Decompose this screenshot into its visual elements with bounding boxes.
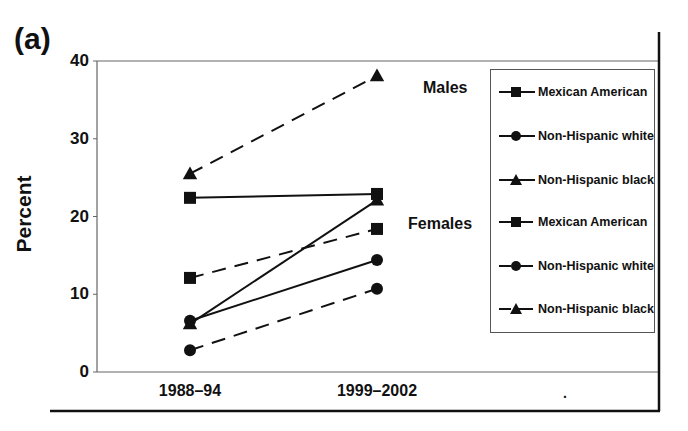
legend: Mexican AmericanNon-Hispanic whiteNon-Hi… [490,69,655,333]
triangle-marker [183,167,197,180]
legend-label: Non-Hispanic black [538,173,654,187]
series-line [190,76,377,174]
square-marker [184,192,196,204]
legend-item: Non-Hispanic black [499,299,654,319]
circle-marker [371,254,383,266]
legend-label: Non-Hispanic white [538,129,654,143]
legend-item: Non-Hispanic black [499,170,654,190]
circle-marker [184,344,196,356]
legend-label: Non-Hispanic black [538,302,654,316]
series-line [190,200,377,324]
stray-mark: . [563,385,567,401]
circle-legend-icon [499,259,535,273]
legend-item: Non-Hispanic white [499,126,654,146]
square-legend-icon [499,85,535,99]
series-line [190,289,377,350]
circle-marker [371,283,383,295]
legend-label: Non-Hispanic white [538,259,654,273]
legend-item: Mexican American [499,82,647,102]
legend-item: Mexican American [499,212,647,232]
triangle-legend-icon [499,302,535,316]
square-legend-icon [499,215,535,229]
females-group-label: Females [408,215,472,233]
series-line [190,260,377,321]
legend-label: Mexican American [538,215,647,229]
triangle-marker [370,69,384,82]
legend-item: Non-Hispanic white [499,256,654,276]
square-marker [371,223,383,235]
males-group-label: Males [423,79,467,97]
circle-legend-icon [499,129,535,143]
square-marker [184,272,196,284]
series-line [190,194,377,198]
series-line [190,229,377,278]
legend-label: Mexican American [538,85,647,99]
triangle-legend-icon [499,173,535,187]
